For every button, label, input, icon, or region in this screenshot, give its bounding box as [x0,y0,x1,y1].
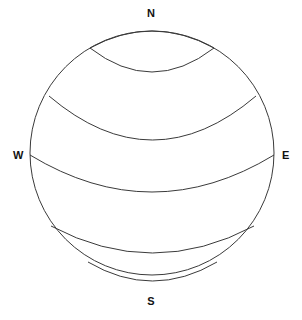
latitude-arc-upper-mid-latitude [49,96,256,140]
latitude-arc-small-polar-circle [90,48,214,72]
compass-label-south: S [0,296,302,307]
sphere-svg [0,0,302,320]
sphere-diagram: N W E S [0,0,302,320]
sphere-outline [30,31,274,275]
compass-label-east: E [282,150,289,161]
compass-label-north: N [0,8,302,19]
compass-label-west: W [13,150,23,161]
latitude-arc-south-polar-circle [88,262,217,281]
latitude-arc-equator [30,155,274,192]
latitude-arc-lower-mid-latitude [51,226,254,253]
latitude-arc-small-polar-circle-back [90,31,214,48]
